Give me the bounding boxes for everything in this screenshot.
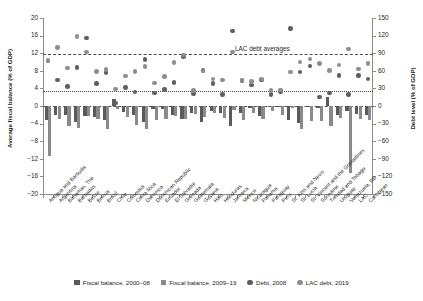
legend-swatch-square-icon bbox=[74, 280, 80, 286]
legend-item: Fiscal balance, 2000–08 bbox=[74, 279, 150, 286]
legend-item: Debt, 2008 bbox=[247, 279, 286, 286]
legend-label: Debt, 2008 bbox=[256, 279, 286, 286]
legend-item: Fiscal balance, 2009–19 bbox=[161, 279, 237, 286]
x-axis-category-labels: Antigua and BarbudaArgentinaBahamas, The… bbox=[0, 0, 423, 301]
x-category-label-text: Caribbean bbox=[368, 183, 389, 204]
x-category-label: Caribbean bbox=[368, 183, 389, 204]
legend-label: Fiscal balance, 2009–19 bbox=[169, 279, 236, 286]
legend-swatch-circle-icon bbox=[247, 280, 253, 286]
legend-item: LAC debt, 2019 bbox=[297, 279, 349, 286]
fiscal-balance-debt-chart: Average fiscal balance (% of GDP) Debt l… bbox=[0, 0, 423, 301]
legend-label: LAC debt, 2019 bbox=[306, 279, 349, 286]
chart-legend: Fiscal balance, 2000–08Fiscal balance, 2… bbox=[0, 279, 423, 286]
legend-swatch-circle-icon bbox=[297, 280, 303, 286]
legend-label: Fiscal balance, 2000–08 bbox=[83, 279, 150, 286]
legend-swatch-square-icon bbox=[161, 280, 167, 286]
